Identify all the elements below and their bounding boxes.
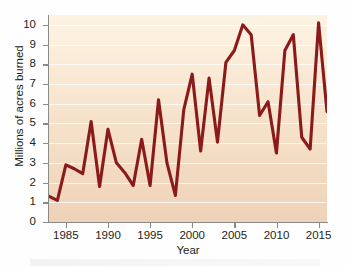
x-tick-2010 xyxy=(277,222,278,228)
line-series-acres-burned xyxy=(49,15,327,222)
y-tick-label-4: 4 xyxy=(8,137,36,149)
x-tick-2015 xyxy=(319,222,320,228)
y-tick-label-10: 10 xyxy=(8,19,36,31)
y-tick-label-9: 9 xyxy=(8,39,36,51)
x-tick-label-1990: 1990 xyxy=(86,229,130,241)
y-tick-label-6: 6 xyxy=(8,98,36,110)
plot-area xyxy=(49,15,327,222)
y-tick-label-2: 2 xyxy=(8,177,36,189)
x-tick-2000 xyxy=(192,222,193,228)
x-tick-label-2000: 2000 xyxy=(170,229,214,241)
x-axis-title: Year xyxy=(49,244,327,256)
x-axis-line xyxy=(48,222,328,223)
x-tick-1985 xyxy=(66,222,67,228)
x-tick-label-2010: 2010 xyxy=(255,229,299,241)
y-tick-label-5: 5 xyxy=(8,117,36,129)
caption-strip xyxy=(30,259,320,266)
x-tick-label-1995: 1995 xyxy=(128,229,172,241)
y-tick-label-1: 1 xyxy=(8,196,36,208)
y-tick-label-0: 0 xyxy=(8,216,36,228)
x-tick-label-2015: 2015 xyxy=(297,229,341,241)
x-tick-2005 xyxy=(234,222,235,228)
x-tick-label-2005: 2005 xyxy=(212,229,256,241)
y-tick-label-3: 3 xyxy=(8,157,36,169)
x-tick-1990 xyxy=(108,222,109,228)
x-tick-label-1985: 1985 xyxy=(44,229,88,241)
y-tick-label-7: 7 xyxy=(8,78,36,90)
x-tick-1995 xyxy=(150,222,151,228)
y-tick-label-8: 8 xyxy=(8,58,36,70)
chart-figure: Millions of acres burned 012345678910 19… xyxy=(0,0,346,267)
y-axis-line xyxy=(48,15,49,223)
